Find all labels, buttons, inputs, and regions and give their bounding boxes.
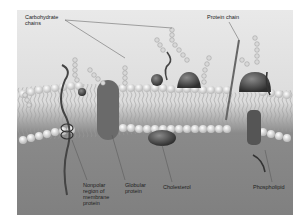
label-cholesterol: Cholesterol <box>163 184 191 190</box>
label-phospholipid: Phospholipid <box>253 184 285 190</box>
label-protein-chain: Protein chain <box>207 14 239 20</box>
label-globular-protein: Globular protein <box>125 182 146 194</box>
globular-protein-shape <box>97 80 119 140</box>
label-carbohydrate-chains: Carbohydrate chains <box>25 14 58 26</box>
membrane-illustration <box>17 10 293 215</box>
membrane-diagram: Carbohydrate chains Protein chain Nonpol… <box>17 10 293 215</box>
label-nonpolar-region: Nonpolar region of membrane protein <box>83 182 109 206</box>
